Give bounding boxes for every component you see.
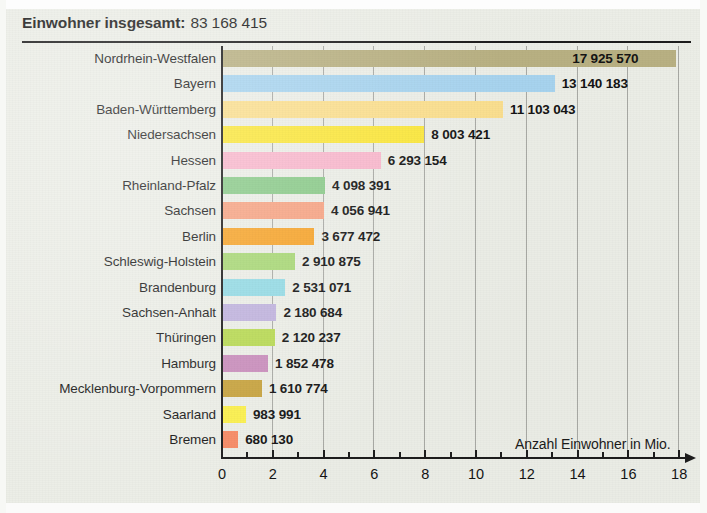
bar[interactable]	[221, 304, 276, 321]
bar-value-label: 6 293 154	[388, 152, 447, 169]
category-label: Thüringen	[6, 329, 216, 346]
bar-value-label: 2 180 684	[283, 304, 342, 321]
bar-row[interactable]: 1 852 478Hamburg	[221, 351, 691, 377]
bar-row[interactable]: 2 531 071Brandenburg	[221, 275, 691, 301]
x-tick-major	[475, 450, 477, 458]
category-label: Saarland	[6, 406, 216, 423]
bar-value-label: 13 140 183	[562, 75, 628, 92]
bar[interactable]	[221, 101, 503, 118]
category-label: Hamburg	[6, 355, 216, 372]
bar-row[interactable]: 13 140 183Bayern	[221, 71, 691, 97]
bar[interactable]	[221, 253, 295, 270]
bar-row[interactable]: 2 180 684Sachsen-Anhalt	[221, 300, 691, 326]
x-tick-label: 16	[608, 466, 648, 482]
x-tick-label: 6	[354, 466, 394, 482]
x-tick-minor	[450, 452, 452, 458]
x-tick-label: 2	[253, 466, 293, 482]
bar-value-label: 17 925 570	[572, 50, 638, 67]
x-tick-minor	[500, 452, 502, 458]
x-axis: 024681012141618	[221, 457, 696, 460]
category-label: Schleswig-Holstein	[6, 253, 216, 270]
x-axis-caption: Anzahl Einwohner in Mio.	[515, 436, 671, 452]
bar[interactable]	[221, 75, 555, 92]
x-axis-arrow-icon	[685, 453, 696, 463]
bar-value-label: 4 098 391	[332, 177, 391, 194]
category-label: Baden-Württemberg	[6, 101, 216, 118]
bar-row[interactable]: 983 991Saarland	[221, 402, 691, 428]
bar-row[interactable]: 8 003 421Niedersachsen	[221, 122, 691, 148]
x-tick-major	[221, 450, 223, 458]
bar-row[interactable]: 4 056 941Sachsen	[221, 198, 691, 224]
bar-row[interactable]: 4 098 391Rheinland-Pfalz	[221, 173, 691, 199]
category-label: Mecklenburg-Vorpommern	[6, 380, 216, 397]
bar-row[interactable]: 11 103 043Baden-Württemberg	[221, 97, 691, 123]
x-tick-label: 14	[558, 466, 598, 482]
x-tick-minor	[297, 452, 299, 458]
bar[interactable]	[221, 380, 262, 397]
x-tick-major	[373, 450, 375, 458]
x-tick-label: 0	[202, 466, 242, 482]
chart-figure: Einwohner insgesamt:83 168 415 17 925 57…	[0, 0, 707, 513]
x-tick-minor	[602, 452, 604, 458]
bar[interactable]	[221, 152, 381, 169]
bar[interactable]	[221, 228, 314, 245]
page-edge-top	[0, 0, 707, 9]
category-label: Bayern	[6, 75, 216, 92]
x-tick-label: 4	[304, 466, 344, 482]
category-label: Rheinland-Pfalz	[6, 177, 216, 194]
bar[interactable]	[221, 177, 325, 194]
chart-title-label: Einwohner insgesamt:	[22, 14, 185, 31]
category-label: Sachsen	[6, 202, 216, 219]
bar[interactable]	[221, 126, 424, 143]
x-tick-minor	[348, 452, 350, 458]
x-tick-major	[424, 450, 426, 458]
bar-value-label: 1 610 774	[269, 380, 328, 397]
bar[interactable]	[221, 329, 275, 346]
bar[interactable]	[221, 406, 246, 423]
page-edge-left	[0, 0, 6, 513]
bar-value-label: 680 130	[245, 431, 293, 448]
x-tick-minor	[551, 452, 553, 458]
x-tick-minor	[399, 452, 401, 458]
x-axis-line	[221, 457, 687, 459]
bar-value-label: 3 677 472	[321, 228, 380, 245]
chart-title-value: 83 168 415	[190, 14, 267, 31]
x-tick-major	[678, 450, 680, 458]
x-tick-minor	[246, 452, 248, 458]
category-label: Brandenburg	[6, 279, 216, 296]
x-tick-label: 10	[456, 466, 496, 482]
category-label: Bremen	[6, 431, 216, 448]
bar-value-label: 8 003 421	[431, 126, 490, 143]
page-edge-right	[700, 0, 707, 513]
category-label: Hessen	[6, 152, 216, 169]
category-label: Berlin	[6, 228, 216, 245]
bar-value-label: 2 910 875	[302, 253, 361, 270]
bar-value-label: 11 103 043	[510, 101, 575, 118]
page-edge-bottom	[0, 503, 707, 513]
x-tick-major	[323, 450, 325, 458]
bar-row[interactable]: 1 610 774Mecklenburg-Vorpommern	[221, 376, 691, 402]
bar[interactable]	[221, 431, 238, 448]
x-tick-label: 12	[507, 466, 547, 482]
bar-value-label: 2 120 237	[282, 329, 341, 346]
x-tick-minor	[653, 452, 655, 458]
bar[interactable]	[221, 202, 324, 219]
bar-value-label: 1 852 478	[275, 355, 334, 372]
chart-title: Einwohner insgesamt:83 168 415	[22, 14, 267, 32]
bar-row[interactable]: 2 910 875Schleswig-Holstein	[221, 249, 691, 275]
x-tick-label: 18	[659, 466, 699, 482]
bar-row[interactable]: 6 293 154Hessen	[221, 148, 691, 174]
bar-value-label: 4 056 941	[331, 202, 390, 219]
bar[interactable]	[221, 355, 268, 372]
bar-row[interactable]: 2 120 237Thüringen	[221, 325, 691, 351]
bar-row[interactable]: 17 925 570Nordrhein-Westfalen	[221, 46, 691, 72]
x-tick-major	[272, 450, 274, 458]
category-label: Niedersachsen	[6, 126, 216, 143]
bar-value-label: 983 991	[253, 406, 301, 423]
bar-row[interactable]: 3 677 472Berlin	[221, 224, 691, 250]
x-tick-label: 8	[405, 466, 445, 482]
y-axis-line	[221, 46, 223, 458]
category-label: Nordrhein-Westfalen	[6, 50, 216, 67]
bar[interactable]	[221, 279, 285, 296]
category-label: Sachsen-Anhalt	[6, 304, 216, 321]
